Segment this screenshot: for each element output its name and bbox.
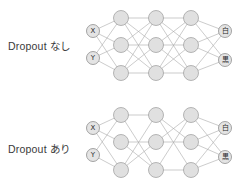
node-label: 黒 — [222, 153, 229, 161]
hidden-node — [184, 38, 199, 53]
node-label: 白 — [222, 123, 229, 132]
node-label: Y — [90, 151, 96, 159]
layer-input: XY — [87, 122, 100, 162]
layer-input: XY — [87, 25, 100, 65]
hidden-node — [184, 66, 199, 81]
layer-hidden-1 — [114, 11, 129, 81]
hidden-node — [114, 38, 129, 53]
hidden-node — [149, 108, 164, 123]
hidden-node — [184, 108, 199, 123]
hidden-node — [149, 135, 164, 150]
hidden-node — [114, 163, 129, 178]
hidden-node — [184, 135, 199, 150]
label-no-dropout: Dropout なし — [8, 38, 70, 53]
layer-hidden-2 — [149, 11, 164, 81]
layer-output: 白黒 — [219, 122, 232, 164]
layer-hidden-3 — [184, 108, 199, 178]
node-label: 白 — [222, 26, 229, 35]
hidden-node — [149, 11, 164, 26]
layer-hidden-3 — [184, 11, 199, 81]
node-label: X — [91, 27, 96, 35]
hidden-node — [149, 38, 164, 53]
hidden-node — [149, 66, 164, 81]
hidden-node — [114, 108, 129, 123]
dropout-comparison-diagram: XY白黒XY白黒 Dropout なし Dropout あり — [0, 0, 239, 192]
hidden-node — [114, 66, 129, 81]
layer-output: 白黒 — [219, 25, 232, 67]
hidden-node — [184, 163, 199, 178]
hidden-node — [114, 135, 129, 150]
hidden-node — [114, 11, 129, 26]
label-with-dropout: Dropout あり — [8, 141, 70, 156]
layer-hidden-2 — [149, 108, 164, 178]
node-label: 黒 — [222, 56, 229, 64]
hidden-node — [184, 11, 199, 26]
hidden-node — [149, 163, 164, 178]
node-label: X — [91, 124, 96, 132]
network-with-dropout: XY白黒 — [87, 108, 232, 178]
layer-hidden-1 — [114, 108, 129, 178]
node-label: Y — [90, 54, 96, 62]
neural-network-canvas: XY白黒XY白黒 — [0, 0, 239, 192]
network-no-dropout: XY白黒 — [87, 11, 232, 81]
